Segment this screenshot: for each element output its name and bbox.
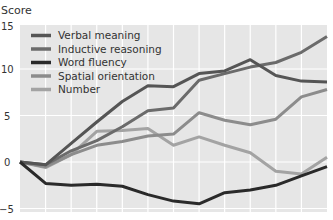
y-tick-15: 15: [1, 21, 14, 32]
chart-canvas: Score 15 10 5 0 −5 Verbal meaning Induct…: [0, 0, 333, 220]
legend-label: Verbal meaning: [58, 29, 141, 41]
y-axis-title: Score: [1, 4, 32, 17]
y-axis-ticks: 15 10 5 0 −5: [0, 21, 14, 215]
y-tick-neg5: −5: [0, 204, 14, 215]
legend-label: Spatial orientation: [58, 70, 155, 82]
line-chart: Score 15 10 5 0 −5 Verbal meaning Induct…: [0, 0, 333, 220]
legend-label: Number: [58, 83, 101, 95]
y-tick-0: 0: [4, 157, 10, 168]
y-tick-10: 10: [1, 64, 14, 75]
y-tick-5: 5: [4, 111, 10, 122]
legend-label: Inductive reasoning: [58, 43, 162, 55]
legend-label: Word fluency: [58, 56, 127, 68]
